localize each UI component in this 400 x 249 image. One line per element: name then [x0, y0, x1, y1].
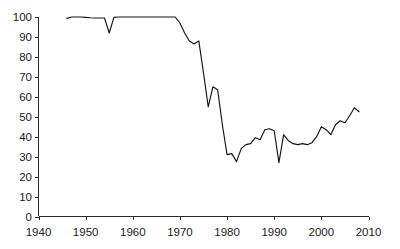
x-tick-label: 1970 — [167, 226, 193, 238]
y-tick-label: 40 — [19, 131, 32, 143]
chart-canvas: 0102030405060708090100 19401950196019701… — [0, 0, 400, 249]
y-tick-label: 0 — [26, 211, 32, 223]
y-tick-label: 50 — [19, 111, 32, 123]
data-series-line — [67, 17, 359, 163]
y-tick-label: 100 — [13, 11, 32, 23]
y-tick-label: 90 — [19, 31, 32, 43]
x-tick-label: 2000 — [309, 226, 335, 238]
y-tick-label: 30 — [19, 151, 32, 163]
x-tick-label: 1940 — [26, 226, 52, 238]
y-tick-label: 80 — [19, 51, 32, 63]
x-tick-label: 1960 — [120, 226, 146, 238]
x-tick-label: 1950 — [73, 226, 99, 238]
y-axis-tick-marks — [35, 18, 39, 218]
x-tick-label: 2010 — [356, 226, 382, 238]
x-tick-label: 1990 — [261, 226, 287, 238]
y-tick-label: 60 — [19, 91, 32, 103]
y-tick-label: 10 — [19, 191, 32, 203]
x-tick-label: 1980 — [214, 226, 240, 238]
y-tick-label: 70 — [19, 71, 32, 83]
x-axis-tick-marks — [40, 217, 370, 221]
x-axis-tick-labels: 19401950196019701980199020002010 — [26, 226, 382, 238]
y-tick-label: 20 — [19, 171, 32, 183]
y-axis-tick-labels: 0102030405060708090100 — [13, 11, 32, 223]
line-chart: 0102030405060708090100 19401950196019701… — [0, 0, 400, 249]
